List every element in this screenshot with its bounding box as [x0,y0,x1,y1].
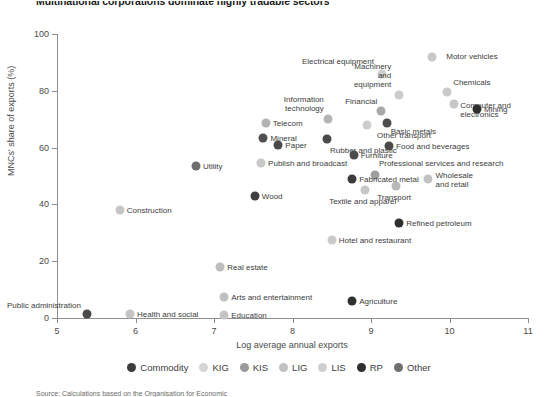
legend-item-commodity[interactable]: Commodity [127,362,188,373]
scatter-point[interactable] [327,235,336,244]
legend-item-kis[interactable]: KIS [240,362,268,373]
point-label: Construction [127,206,172,215]
scatter-point[interactable] [472,105,481,114]
point-label: Utility [203,162,223,171]
scatter-point[interactable] [360,186,369,195]
legend-swatch-icon [127,363,136,372]
scatter-point[interactable] [126,309,135,318]
scatter-point[interactable] [363,120,372,129]
point-label: Financial [345,97,377,106]
legend-label: LIS [331,362,345,373]
point-label: Food and beverages [396,142,469,151]
scatter-point[interactable] [82,309,91,318]
point-label: Paper [285,141,306,150]
scatter-point[interactable] [385,142,394,151]
x-tick-mark [528,318,529,323]
point-label: Publish and broadcast [268,159,347,168]
point-label: Refined petroleum [406,219,471,228]
scatter-point[interactable] [220,311,229,320]
legend-swatch-icon [279,363,288,372]
scatter-point[interactable] [395,218,404,227]
point-label: Fabricated metal [359,175,419,184]
point-label: Mining [484,105,508,114]
legend-label: KIS [253,362,268,373]
point-label: Chemicals [453,78,490,87]
y-tick-mark [52,148,57,149]
y-tick-label: 0 [23,313,49,323]
scatter-point[interactable] [395,91,404,100]
point-label: Real estate [227,263,267,272]
y-tick-label: 60 [23,143,49,153]
scatter-point[interactable] [428,52,437,61]
legend-item-lis[interactable]: LIS [318,362,345,373]
scatter-point[interactable] [323,115,332,124]
plot-area: 020406080100 567891011 Motor vehiclesEle… [57,34,528,318]
point-label: Health and social [137,310,198,319]
point-label: Arts and entertainment [231,293,312,302]
legend-swatch-icon [318,363,327,372]
scatter-point[interactable] [377,106,386,115]
point-label: Other transport [377,131,431,140]
scatter-point[interactable] [115,206,124,215]
legend-label: RP [370,362,383,373]
legend-item-rp[interactable]: RP [357,362,383,373]
x-tick-mark [371,318,372,323]
x-tick-mark [293,318,294,323]
y-tick-mark [52,91,57,92]
y-axis-line [57,34,58,318]
scatter-point[interactable] [349,150,358,159]
x-axis-title: Log average annual exports [236,340,348,350]
legend-swatch-icon [357,363,366,372]
scatter-point[interactable] [392,181,401,190]
y-tick-label: 80 [23,86,49,96]
scatter-point[interactable] [216,262,225,271]
point-label: Public administration [7,301,81,310]
x-tick-label: 5 [54,326,59,336]
x-tick-label: 6 [133,326,138,336]
scatter-point[interactable] [348,296,357,305]
y-tick-mark [52,261,57,262]
scatter-point[interactable] [250,191,259,200]
legend-label: Other [407,362,431,373]
scatter-point[interactable] [220,292,229,301]
y-tick-mark [52,204,57,205]
scatter-point[interactable] [323,135,332,144]
scatter-point[interactable] [348,174,357,183]
y-tick-label: 20 [23,256,49,266]
point-label: Wood [262,192,283,201]
point-label: Motor vehicles [446,52,498,61]
point-label: Machinery and equipment [354,62,391,89]
legend-swatch-icon [240,363,249,372]
y-tick-label: 40 [23,199,49,209]
source-note: Source: Calculations based on the Organi… [36,390,227,397]
scatter-point[interactable] [450,99,459,108]
x-tick-label: 7 [211,326,216,336]
point-label: Information technology [284,95,324,113]
legend-label: LIG [292,362,307,373]
x-tick-label: 11 [523,326,532,336]
legend-item-other[interactable]: Other [394,362,431,373]
scatter-point[interactable] [261,119,270,128]
legend-item-kig[interactable]: KIG [199,362,228,373]
x-tick-label: 10 [444,326,454,336]
figure-container: Multinational corporations dominate high… [0,0,558,397]
scatter-point[interactable] [443,88,452,97]
legend-label: Commodity [140,362,188,373]
point-label: Education [231,311,267,320]
point-label: Wholesale and retail [436,171,473,189]
x-tick-label: 9 [368,326,373,336]
x-tick-mark [450,318,451,323]
x-tick-label: 8 [290,326,295,336]
scatter-point[interactable] [191,162,200,171]
legend-item-lig[interactable]: LIG [279,362,307,373]
y-tick-label: 100 [23,29,49,39]
scatter-point[interactable] [259,133,268,142]
legend-swatch-icon [394,363,403,372]
legend-label: KIG [212,362,228,373]
chart-legend: CommodityKIGKISLIGLISRPOther [0,362,558,373]
chart-title: Multinational corporations dominate high… [36,0,329,7]
scatter-point[interactable] [257,159,266,168]
scatter-point[interactable] [274,140,283,149]
x-tick-mark [136,318,137,323]
scatter-point[interactable] [423,174,432,183]
